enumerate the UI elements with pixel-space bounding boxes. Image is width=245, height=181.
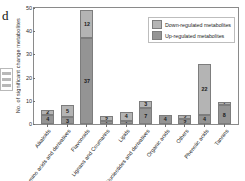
stacked-bar[interactable]: 4 bbox=[159, 115, 172, 124]
y-axis-title: No. of significant change metabolites bbox=[13, 8, 23, 124]
bar-slot: 53 bbox=[58, 8, 78, 124]
x-label-slot: Organic acids bbox=[156, 127, 176, 181]
bar-segment-up[interactable]: 4 bbox=[41, 115, 54, 124]
legend-item-down: Down-regulated metabolites bbox=[152, 20, 231, 29]
legend-label-up: Up-regulated metabolites bbox=[165, 33, 224, 39]
x-label-slot: Phenolic acids bbox=[195, 127, 215, 181]
stacked-bar[interactable]: 21 bbox=[100, 116, 113, 124]
stacked-bar[interactable]: 1237 bbox=[80, 10, 93, 124]
bar-segment-down[interactable]: 3 bbox=[139, 101, 152, 108]
bar-segment-down[interactable]: 22 bbox=[198, 64, 211, 115]
bar-segment-up[interactable]: 37 bbox=[80, 38, 93, 124]
y-tick-50: 50 bbox=[19, 5, 32, 11]
bar-segment-up[interactable]: 3 bbox=[61, 117, 74, 124]
x-label-slot: Tannins bbox=[215, 127, 235, 181]
stacked-bar[interactable]: 41 bbox=[120, 112, 133, 124]
stacked-bar[interactable]: 24 bbox=[41, 110, 54, 124]
y-tick-10: 10 bbox=[19, 98, 32, 104]
bar-slot: 21 bbox=[97, 8, 117, 124]
x-axis-label-9: Tannins bbox=[213, 128, 229, 147]
stacked-bar[interactable]: 53 bbox=[61, 105, 74, 124]
bar-segment-up[interactable]: 8 bbox=[218, 105, 231, 124]
stacked-bar[interactable]: 22 bbox=[178, 115, 191, 124]
bar-segment-down[interactable]: 12 bbox=[80, 10, 93, 38]
bar-segment-down[interactable]: 5 bbox=[61, 105, 74, 117]
bar-segment-up[interactable]: 4 bbox=[198, 115, 211, 124]
y-tick-20: 20 bbox=[19, 75, 32, 81]
bar-segment-up[interactable]: 4 bbox=[159, 115, 172, 124]
bar-segment-down[interactable]: 4 bbox=[120, 112, 133, 121]
legend-swatch-down-icon bbox=[152, 20, 162, 29]
bar-slot: 1237 bbox=[77, 8, 97, 124]
x-axis-label-7: Others bbox=[175, 128, 190, 145]
clipped-neighbor-legend bbox=[0, 68, 13, 91]
x-axis-label-0: Alkaloids bbox=[33, 128, 51, 149]
plot-area: 01020304050 2453123721413742222418 Down-… bbox=[33, 7, 239, 125]
panel-letter: d bbox=[2, 8, 9, 24]
y-tick-40: 40 bbox=[19, 28, 32, 34]
y-tick-30: 30 bbox=[19, 51, 32, 57]
x-axis-labels: AlkaloidsAmino acids and derivativesFlav… bbox=[33, 127, 239, 181]
legend-swatch-up-icon bbox=[152, 31, 162, 40]
bar-slot: 41 bbox=[116, 8, 136, 124]
chart-legend: Down-regulated metabolites Up-regulated … bbox=[148, 17, 235, 43]
legend-item-up: Up-regulated metabolites bbox=[152, 31, 231, 40]
x-axis-label-4: Lipids bbox=[117, 128, 131, 143]
bar-segment-up[interactable]: 7 bbox=[139, 108, 152, 124]
stacked-bar[interactable]: 224 bbox=[198, 64, 211, 124]
stacked-bar[interactable]: 37 bbox=[139, 101, 152, 124]
y-tick-0: 0 bbox=[19, 121, 32, 127]
stacked-bar[interactable]: 18 bbox=[218, 102, 231, 124]
chart-panel: d No. of significant change metabolites … bbox=[0, 0, 245, 181]
legend-label-down: Down-regulated metabolites bbox=[165, 22, 231, 28]
bar-slot: 24 bbox=[38, 8, 58, 124]
